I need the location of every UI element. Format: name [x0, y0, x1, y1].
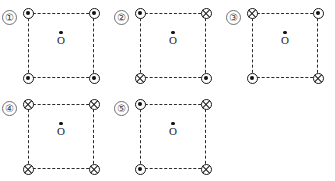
square-edge-left — [28, 104, 29, 169]
panel-index-label-4: ④ — [2, 101, 17, 116]
square-edge-right — [205, 104, 206, 169]
corner-marker-top-left — [247, 8, 258, 19]
corner-marker-top-right — [89, 99, 100, 110]
corner-marker-top-right — [201, 99, 212, 110]
center-point-O: O — [164, 122, 182, 138]
corner-marker-bottom-right — [201, 164, 212, 175]
center-point-label: O — [164, 126, 182, 137]
square-edge-top — [252, 13, 318, 14]
wire-square-1: O — [28, 13, 94, 78]
corner-marker-top-right — [89, 8, 100, 19]
center-point-label: O — [164, 35, 182, 46]
square-edge-left — [28, 13, 29, 78]
center-point-O: O — [52, 122, 70, 138]
square-edge-top — [28, 13, 94, 14]
corner-marker-top-left — [135, 8, 146, 19]
square-edge-right — [93, 13, 94, 78]
wire-square-2: O — [140, 13, 206, 78]
wire-square-4: O — [28, 104, 94, 169]
center-point-O: O — [52, 31, 70, 47]
diagram-panel-1: ① O — [0, 0, 110, 90]
center-point-O: O — [276, 31, 294, 47]
square-edge-top — [140, 104, 206, 105]
square-edge-right — [205, 13, 206, 78]
square-edge-bottom — [140, 168, 206, 169]
square-edge-top — [140, 13, 206, 14]
diagram-panel-5: ⑤ O — [112, 91, 222, 181]
panel-index-label-5: ⑤ — [114, 101, 129, 116]
wire-square-3: O — [252, 13, 318, 78]
panel-index-label-3: ③ — [226, 10, 241, 25]
square-edge-bottom — [28, 168, 94, 169]
diagram-panel-3: ③ O — [224, 0, 334, 90]
square-edge-bottom — [252, 77, 318, 78]
corner-marker-top-left — [23, 99, 34, 110]
panel-index-label-2: ② — [114, 10, 129, 25]
corner-marker-top-right — [313, 8, 324, 19]
diagram-panel-4: ④ O — [0, 91, 110, 181]
corner-marker-bottom-left — [135, 164, 146, 175]
square-edge-left — [140, 104, 141, 169]
center-point-label: O — [276, 35, 294, 46]
center-point-label: O — [52, 35, 70, 46]
square-edge-left — [252, 13, 253, 78]
panel-index-label-1: ① — [2, 10, 17, 25]
corner-marker-top-right — [201, 8, 212, 19]
wire-square-5: O — [140, 104, 206, 169]
corner-marker-bottom-right — [201, 73, 212, 84]
corner-marker-bottom-right — [89, 73, 100, 84]
corner-marker-bottom-right — [89, 164, 100, 175]
square-edge-bottom — [140, 77, 206, 78]
center-point-O: O — [164, 31, 182, 47]
corner-marker-bottom-left — [23, 73, 34, 84]
square-edge-left — [140, 13, 141, 78]
corner-marker-bottom-right — [313, 73, 324, 84]
square-edge-right — [317, 13, 318, 78]
square-edge-top — [28, 104, 94, 105]
corner-marker-bottom-left — [247, 73, 258, 84]
current-configurations-figure: ① O ② — [0, 0, 335, 181]
square-edge-right — [93, 104, 94, 169]
corner-marker-bottom-left — [23, 164, 34, 175]
diagram-panel-2: ② O — [112, 0, 222, 90]
center-point-label: O — [52, 126, 70, 137]
corner-marker-bottom-left — [135, 73, 146, 84]
corner-marker-top-left — [23, 8, 34, 19]
corner-marker-top-left — [135, 99, 146, 110]
square-edge-bottom — [28, 77, 94, 78]
